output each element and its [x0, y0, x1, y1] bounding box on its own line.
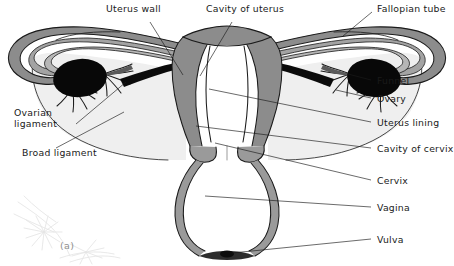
watermark-artifact — [14, 196, 120, 264]
label-cavity-of-cervix: Cavity of cervix — [377, 144, 454, 155]
label-vagina: Vagina — [377, 203, 410, 214]
label-uterus-wall: Uterus wall — [106, 4, 161, 15]
vulva-opening — [220, 251, 234, 258]
diagram-canvas: .ol{fill:none;stroke:#1a1a1a;stroke-widt… — [0, 0, 454, 266]
uterus-body — [172, 26, 282, 146]
label-vulva: Vulva — [377, 235, 404, 246]
leader-vulva — [232, 239, 371, 253]
label-uterus-lining: Uterus lining — [377, 118, 439, 129]
label-cervix: Cervix — [377, 176, 408, 187]
label-funnel: Funnel — [377, 76, 409, 87]
label-cavity-of-uterus: Cavity of uterus — [206, 4, 284, 15]
label-broad-ligament: Broad ligament — [22, 148, 97, 159]
label-ovarian-ligament-line2: ligament — [14, 119, 57, 130]
figure-caption: (a) — [60, 240, 74, 251]
vagina — [175, 160, 279, 260]
label-ovary: Ovary — [377, 94, 406, 105]
cervix — [190, 146, 265, 162]
leader-vagina — [205, 196, 371, 207]
label-fallopian-tube: Fallopian tube — [377, 4, 446, 15]
label-ovarian-ligament-line1: Ovarian — [14, 108, 52, 119]
anatomy-illustration: .ol{fill:none;stroke:#1a1a1a;stroke-widt… — [0, 0, 454, 266]
